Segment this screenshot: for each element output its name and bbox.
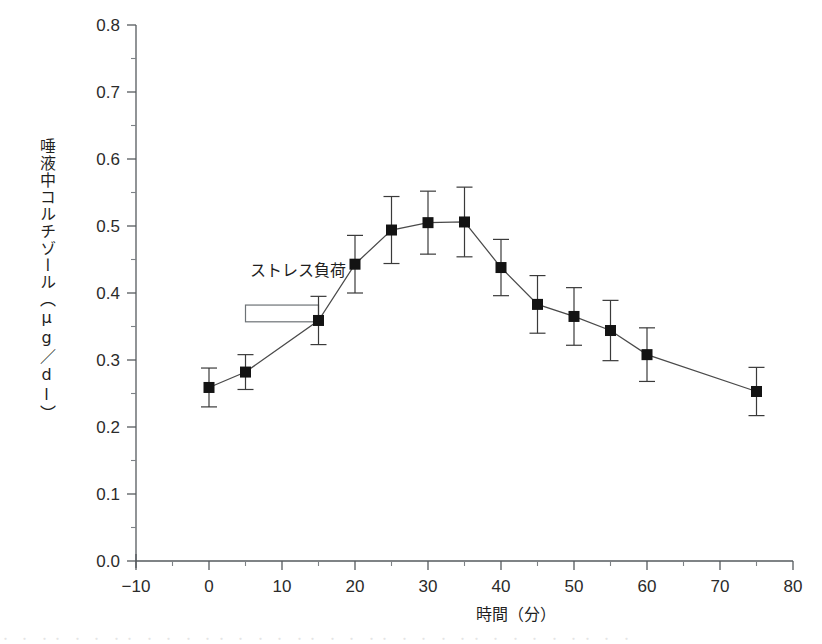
data-point-marker — [204, 382, 215, 393]
data-point-marker — [386, 225, 397, 236]
y-axis — [127, 25, 136, 561]
data-point-marker — [569, 311, 580, 322]
x-axis — [136, 554, 793, 570]
data-point-marker — [350, 259, 361, 270]
y-tick-label: 0.3 — [96, 351, 120, 370]
x-tick-label: 50 — [565, 577, 584, 596]
data-series-cortisol — [201, 187, 765, 415]
data-point-marker — [313, 315, 324, 326]
x-tick-label: 40 — [492, 577, 511, 596]
data-point-marker — [642, 349, 653, 360]
stress-load-box — [246, 305, 319, 322]
data-point-marker — [605, 325, 616, 336]
y-tick-label: 0.5 — [96, 217, 120, 236]
chart-annotations: ストレス負荷 — [246, 261, 346, 322]
data-point-marker — [240, 367, 251, 378]
y-tick-label: 0.4 — [96, 284, 120, 303]
x-tick-label: 30 — [419, 577, 438, 596]
data-point-marker — [496, 262, 507, 273]
y-tick-label: 0.1 — [96, 485, 120, 504]
cortisol-time-course-chart: 唾液中コルチゾール（μg／dl） ストレス負荷 0.00.10.20.30.40… — [0, 0, 822, 644]
x-tick-label: 10 — [273, 577, 292, 596]
data-point-marker — [751, 386, 762, 397]
y-tick-label: 0.6 — [96, 150, 120, 169]
x-axis-title: 時間（分） — [476, 605, 556, 624]
data-point-marker — [532, 299, 543, 310]
y-tick-label: 0.7 — [96, 83, 120, 102]
x-tick-label: 70 — [711, 577, 730, 596]
y-tick-label: 0.0 — [96, 552, 120, 571]
y-axis-title: 唾液中コルチゾール（μg／dl） — [12, 138, 54, 422]
x-tick-label: 20 — [346, 577, 365, 596]
stress-load-label: ストレス負荷 — [250, 261, 346, 280]
x-tick-label: −10 — [122, 577, 151, 596]
data-point-marker — [459, 216, 470, 227]
x-tick-label: 0 — [204, 577, 213, 596]
data-point-marker — [423, 217, 434, 228]
x-tick-label: 60 — [638, 577, 657, 596]
tick-labels: 0.00.10.20.30.40.50.60.70.8−100102030405… — [96, 16, 802, 624]
y-tick-label: 0.2 — [96, 418, 120, 437]
y-tick-label: 0.8 — [96, 16, 120, 35]
scan-bleed-artifact: ・ ・ ・・ ・ ・ ・・ ・ ・ ・ ・・ ・ ・ ・ ・・ ・ ・ ・・ ・… — [0, 630, 822, 642]
chart-plot-area: ストレス負荷 0.00.10.20.30.40.50.60.70.8−10010… — [0, 0, 822, 644]
x-tick-label: 80 — [784, 577, 803, 596]
